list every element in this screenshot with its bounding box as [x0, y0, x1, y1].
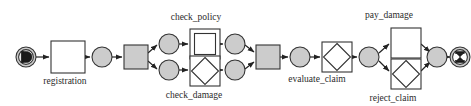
- node-registration[interactable]: [51, 41, 85, 73]
- node-place-bottom-2[interactable]: [225, 60, 245, 80]
- node-place-p2[interactable]: [290, 47, 310, 67]
- node-pay-damage[interactable]: [391, 28, 421, 58]
- node-start-place[interactable]: [16, 47, 36, 67]
- arc-p-top2-to-join: [245, 45, 254, 52]
- arc-split-to-p-bottom: [148, 61, 157, 69]
- arc-split-to-p-top: [148, 45, 157, 53]
- label-reject-claim: reject_claim: [370, 93, 418, 103]
- node-check-damage[interactable]: [190, 56, 220, 86]
- arc-p3-to-reject-claim: [379, 61, 389, 71]
- label-check-damage: check_damage: [166, 90, 222, 100]
- node-evaluate-claim[interactable]: [322, 42, 352, 72]
- node-check-policy[interactable]: [190, 29, 220, 59]
- node-place-p1[interactable]: [92, 47, 112, 67]
- label-check-policy: check_policy: [171, 12, 222, 22]
- arc-p-bottom2-to-join: [245, 62, 254, 69]
- node-join-transition[interactable]: [256, 45, 280, 69]
- node-place-p4[interactable]: [427, 47, 447, 67]
- arc-p3-to-pay-damage: [379, 44, 389, 53]
- node-reject-claim[interactable]: [391, 59, 421, 89]
- node-end-place[interactable]: [450, 47, 470, 67]
- workflow-diagram: registration check_policy check_damage e…: [0, 0, 471, 106]
- node-place-top-1[interactable]: [159, 34, 179, 54]
- label-evaluate-claim: evaluate_claim: [288, 74, 346, 84]
- node-split-transition[interactable]: [124, 45, 148, 69]
- petri-net-canvas: registration check_policy check_damage e…: [0, 0, 471, 106]
- node-place-p3[interactable]: [359, 47, 379, 67]
- start-marker-icon: [21, 51, 32, 62]
- label-registration: registration: [43, 76, 87, 86]
- node-place-top-2[interactable]: [225, 34, 245, 54]
- label-pay-damage: pay_damage: [365, 10, 413, 20]
- node-place-bottom-1[interactable]: [159, 60, 179, 80]
